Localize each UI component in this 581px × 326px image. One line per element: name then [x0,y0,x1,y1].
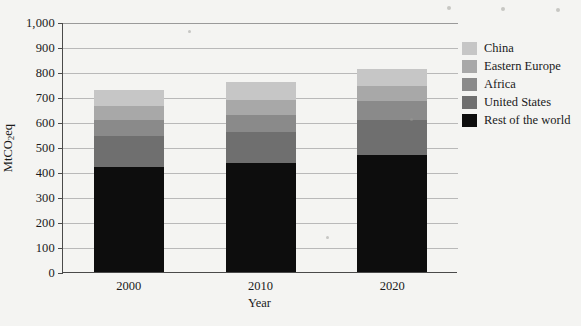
bar-segment [357,101,427,120]
y-axis-tick-label: 1,000 [26,16,55,31]
bar-segment [94,120,164,136]
y-axis-tick [58,273,63,274]
bar-segment [357,155,427,273]
legend-swatch-icon [462,96,477,109]
legend-swatch-icon [462,78,477,91]
legend-item-label: China [484,42,514,55]
gridline [63,48,458,49]
y-axis-tick [58,98,63,99]
bar-segment [94,167,164,272]
plot-area: 01002003004005006007008009001,0002000201… [62,23,457,273]
bar-segment [226,82,296,100]
y-axis-tick-label: 0 [49,266,55,281]
x-axis-tick-label: 2020 [380,279,405,294]
chart-legend: ChinaEastern EuropeAfricaUnited StatesRe… [462,42,570,127]
bar-segment [226,163,296,272]
y-axis-title-post: eq [1,124,15,136]
legend-swatch-icon [462,42,477,55]
x-axis-title: Year [62,296,457,311]
x-axis-tick-label: 2000 [116,279,141,294]
y-axis-title: MtCO2eq [1,124,16,172]
bar-segment [357,69,427,86]
bar-stack [357,69,427,272]
y-axis-title-pre: MtCO [1,140,15,172]
scan-speckle [447,6,451,10]
legend-item: Eastern Europe [462,60,570,73]
bar-segment [94,106,164,120]
bar-segment [94,90,164,106]
y-axis-tick [58,148,63,149]
scan-speckle [556,8,560,12]
y-axis-tick [58,248,63,249]
bar-segment [357,86,427,101]
gridline [63,23,458,24]
y-axis-tick [58,73,63,74]
legend-item-label: United States [484,96,551,109]
legend-item-label: Eastern Europe [484,60,561,73]
y-axis-tick [58,223,63,224]
chart-figure: MtCO2eq 01002003004005006007008009001,00… [0,0,581,326]
bar-stack [94,90,164,272]
y-axis-tick-label: 500 [36,141,55,156]
legend-swatch-icon [462,114,477,127]
y-axis-title-sub: 2 [6,136,16,141]
y-axis-tick-label: 200 [36,216,55,231]
y-axis-tick [58,173,63,174]
y-axis-tick [58,48,63,49]
bar-stack [226,82,296,273]
legend-item: China [462,42,570,55]
legend-item-label: Rest of the world [484,114,570,127]
legend-item-label: Africa [484,78,516,91]
y-axis-tick-label: 300 [36,191,55,206]
scan-speckle [501,7,505,11]
legend-item: Rest of the world [462,114,570,127]
y-axis-tick-label: 800 [36,66,55,81]
legend-swatch-icon [462,60,477,73]
y-axis-tick-label: 100 [36,241,55,256]
y-axis-tick-label: 700 [36,91,55,106]
y-axis-tick-label: 600 [36,116,55,131]
legend-item: United States [462,96,570,109]
y-axis-tick [58,198,63,199]
bar-segment [94,136,164,167]
legend-item: Africa [462,78,570,91]
bar-segment [226,115,296,133]
bar-segment [357,120,427,155]
y-axis-tick-label: 900 [36,41,55,56]
y-axis-tick [58,23,63,24]
y-axis-tick-label: 400 [36,166,55,181]
x-axis-tick-label: 2010 [248,279,273,294]
bar-segment [226,132,296,163]
bar-segment [226,100,296,115]
y-axis-tick [58,123,63,124]
